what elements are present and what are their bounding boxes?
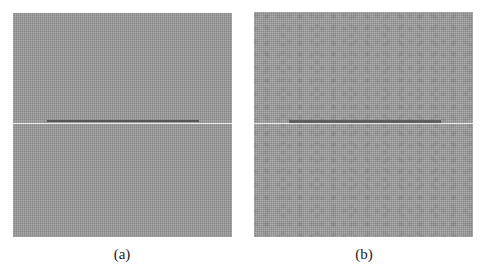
white-line [254,123,473,124]
caption-b: (b) [334,246,394,263]
figure-panel-a [13,13,232,237]
caption-a: (a) [92,246,152,263]
figure-panel-b [254,12,473,237]
white-line [13,123,232,124]
dark-bar [47,120,199,122]
